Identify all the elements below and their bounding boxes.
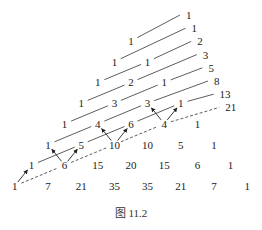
triangle-entry: 2 [128, 76, 134, 88]
triangle-entry: 1 [128, 35, 134, 47]
fibonacci-label: 1 [192, 22, 198, 34]
triangle-entry: 1 [161, 76, 167, 88]
triangle-entry: 20 [126, 159, 138, 171]
triangle-entry: 1 [145, 56, 151, 68]
diagonal-line [121, 85, 158, 100]
triangle-entry: 35 [142, 180, 154, 192]
triangle-entry: 4 [95, 118, 101, 130]
fibonacci-label: 5 [208, 62, 214, 74]
triangle-entry: 1 [45, 139, 51, 151]
triangle-entry: 6 [62, 159, 68, 171]
arrow [52, 149, 62, 161]
triangle-entry: 21 [175, 180, 186, 192]
triangle-entry: 3 [145, 97, 151, 109]
triangle-entry: 6 [128, 118, 134, 130]
triangle-entry: 10 [142, 139, 154, 151]
triangle-entry: 1 [62, 118, 68, 130]
triangle-entry: 1 [95, 76, 101, 88]
diagonal-line [104, 64, 141, 79]
triangle-entry: 1 [78, 97, 84, 109]
triangle-entry: 5 [78, 139, 84, 151]
triangle-entry: 3 [112, 97, 118, 109]
diagonal-line [188, 94, 214, 101]
triangle-numbers: 1111211331146411510105116152015611721353… [12, 35, 250, 192]
triangle-entry: 4 [161, 118, 167, 130]
diagonal-line [154, 41, 191, 58]
fibonacci-label: 1 [186, 9, 192, 21]
diagonal-line [104, 106, 141, 121]
triangle-entry: 1 [228, 159, 234, 171]
triangle-entry: 6 [195, 159, 201, 171]
diagonal-line [137, 15, 180, 38]
triangle-entry: 1 [112, 56, 118, 68]
fibonacci-labels: 1123581321 [186, 9, 236, 113]
fibonacci-label: 13 [220, 88, 232, 100]
diagonal-line [71, 106, 108, 121]
arrow [18, 170, 28, 182]
triangle-entry: 1 [244, 180, 250, 192]
triangle-entry: 15 [92, 159, 104, 171]
pascal-fibonacci-diagram: 1111211331146411510105116152015611721353… [0, 0, 262, 230]
triangle-entry: 7 [45, 180, 51, 192]
triangle-entry: 1 [195, 118, 201, 130]
diagonal-lines [21, 15, 219, 183]
triangle-entry: 21 [76, 180, 87, 192]
triangle-entry: 1 [178, 97, 184, 109]
diagonal-line [55, 127, 92, 142]
triangle-entry: 1 [211, 139, 217, 151]
triangle-entry: 7 [211, 180, 217, 192]
fibonacci-label: 2 [197, 35, 203, 47]
arrow [151, 108, 161, 120]
arrow [68, 149, 78, 161]
diagonal-line [171, 68, 203, 80]
triangle-entry: 10 [109, 139, 121, 151]
fibonacci-label: 3 [203, 49, 209, 61]
triangle-entry: 1 [29, 159, 35, 171]
arrow [167, 108, 177, 120]
triangle-entry: 15 [159, 159, 171, 171]
triangle-entry: 5 [178, 139, 184, 151]
figure-caption: 图 11.2 [0, 204, 262, 220]
triangle-entry: 1 [12, 180, 18, 192]
diagonal-line [88, 85, 125, 100]
fibonacci-label: 21 [225, 101, 236, 113]
triangle-entry: 35 [109, 180, 121, 192]
fibonacci-label: 8 [214, 75, 220, 87]
